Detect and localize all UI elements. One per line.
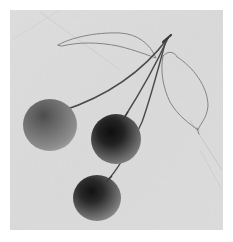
artwork-canvas — [0, 0, 233, 242]
cherry-artwork: three cherries on stems with two outline… — [0, 0, 233, 242]
middle-cherry — [91, 114, 141, 164]
bottom-cherry — [73, 175, 121, 221]
left-cherry — [23, 99, 77, 151]
